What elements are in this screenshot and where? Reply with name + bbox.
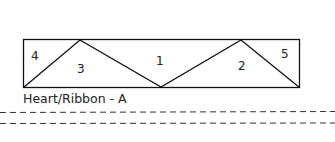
piece-label-3: 3 [77, 62, 85, 76]
pattern-diagram [0, 0, 335, 142]
cut-line-dashed-1 [0, 112, 335, 113]
piece-label-1: 1 [156, 54, 164, 68]
piece-label-2: 2 [238, 59, 246, 73]
cut-line-dashed-2 [0, 123, 335, 124]
piece-label-5: 5 [281, 47, 289, 61]
piece-label-4: 4 [31, 49, 39, 63]
diagram-caption: Heart/Ribbon - A [23, 91, 127, 106]
